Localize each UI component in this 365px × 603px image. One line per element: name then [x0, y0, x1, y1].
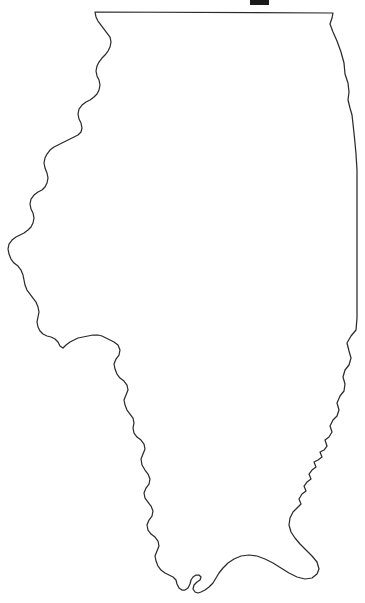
- map-canvas: [0, 0, 365, 603]
- illinois-outline-svg: [0, 0, 365, 603]
- illinois-state-boundary-path: [8, 12, 357, 593]
